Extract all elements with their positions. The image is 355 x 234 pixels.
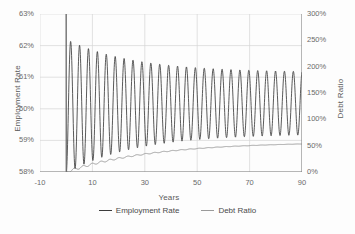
legend-label: Debt Ratio — [218, 206, 256, 215]
x-axis-tick-label: 10 — [79, 178, 105, 187]
x-axis-tick-label: 30 — [132, 178, 158, 187]
plot-area — [40, 14, 302, 172]
y-axis-right-tick-label: 150% — [307, 88, 335, 97]
y-axis-left-tick-label: 59% — [8, 135, 34, 144]
x-axis-tick-label: 50 — [184, 178, 210, 187]
x-axis-tick-label: 90 — [289, 178, 315, 187]
legend-line-icon — [201, 210, 214, 211]
y-axis-right-tick-label: 200% — [307, 62, 335, 71]
chart-container: Employment Rate Debt Ratio Years 58%59%6… — [0, 0, 355, 234]
y-axis-right-tick-label: 50% — [307, 141, 335, 150]
series-debt-ratio — [66, 144, 302, 172]
y-axis-left-tick-label: 58% — [8, 167, 34, 176]
y-axis-left-tick-label: 61% — [8, 72, 34, 81]
x-axis-tick-label: -10 — [27, 178, 53, 187]
legend-item[interactable]: Employment Rate — [99, 206, 180, 215]
series-employment-rate — [66, 14, 302, 172]
y-axis-right-tick-label: 250% — [307, 35, 335, 44]
plot-svg — [40, 14, 302, 172]
y-axis-right-title: Debt Ratio — [336, 44, 345, 154]
chart-legend: Employment RateDebt Ratio — [0, 206, 355, 215]
legend-label: Employment Rate — [116, 206, 180, 215]
y-axis-right-tick-label: 0% — [307, 167, 335, 176]
y-axis-left-tick-label: 62% — [8, 41, 34, 50]
x-axis-tick-label: 70 — [237, 178, 263, 187]
legend-item[interactable]: Debt Ratio — [201, 206, 256, 215]
y-axis-right-tick-label: 300% — [307, 9, 335, 18]
y-axis-left-tick-label: 63% — [8, 9, 34, 18]
x-axis-title: Years — [35, 193, 303, 202]
y-axis-right-tick-label: 100% — [307, 114, 335, 123]
y-axis-left-tick-label: 60% — [8, 104, 34, 113]
legend-line-icon — [99, 210, 112, 211]
